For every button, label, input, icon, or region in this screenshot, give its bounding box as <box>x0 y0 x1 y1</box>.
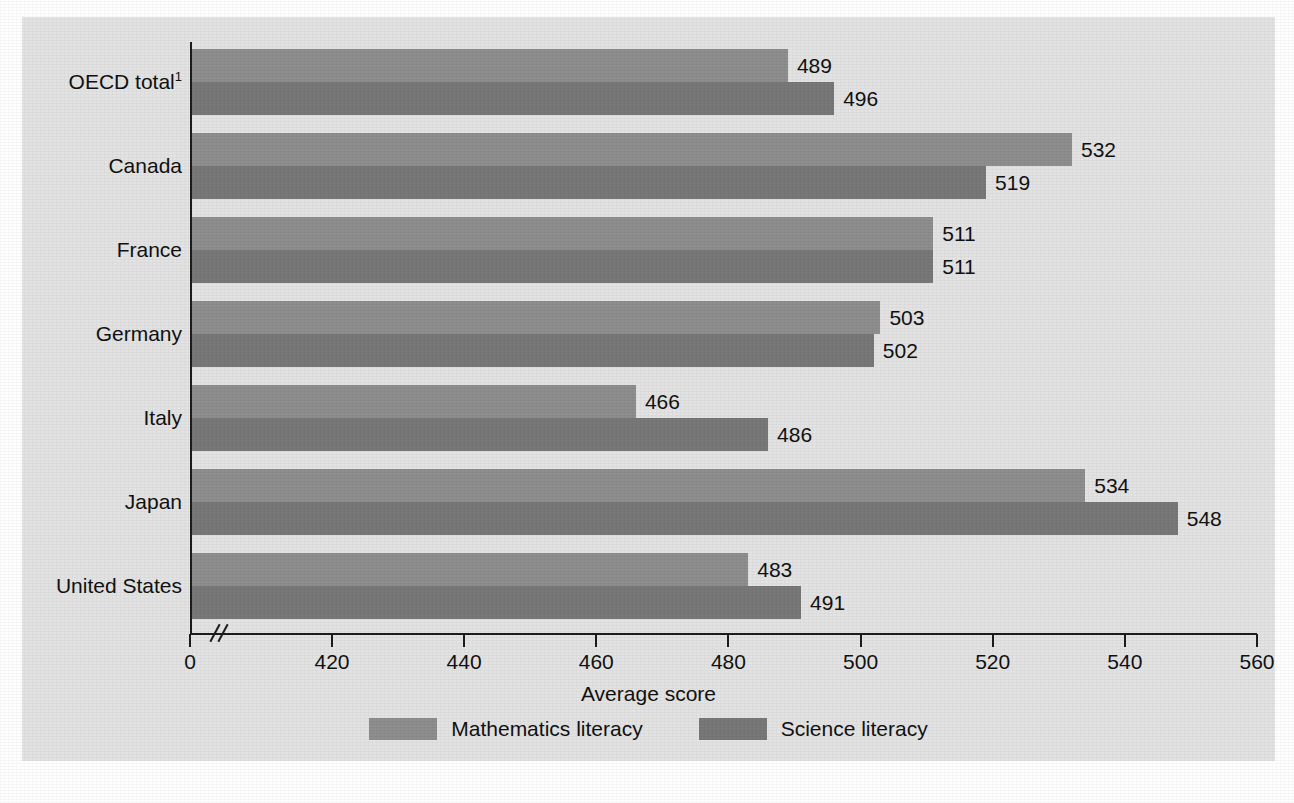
bar-value-label: 519 <box>995 171 1030 195</box>
plot-area: 0420440460480500520540560 OECD total1Can… <box>22 17 1275 761</box>
legend-swatch <box>369 718 437 740</box>
category-label: Japan <box>125 490 182 514</box>
category-label: France <box>117 238 182 262</box>
bar-mathematics <box>192 49 788 82</box>
bar-value-label: 511 <box>942 222 975 246</box>
bar-value-label: 496 <box>843 87 878 111</box>
bar-mathematics <box>192 553 748 586</box>
x-axis-tick <box>595 634 597 647</box>
bar-value-label: 486 <box>777 423 812 447</box>
bar-value-label: 483 <box>757 558 792 582</box>
bar-science <box>192 502 1178 535</box>
x-axis-tick <box>463 634 465 647</box>
x-axis-tick-label: 460 <box>579 650 614 674</box>
bar-value-label: 491 <box>810 591 845 615</box>
bar-value-label: 503 <box>889 306 924 330</box>
bar-science <box>192 418 768 451</box>
bar-value-label: 548 <box>1187 507 1222 531</box>
bar-mathematics <box>192 385 636 418</box>
x-axis-title: Average score <box>22 682 1275 706</box>
legend-label: Mathematics literacy <box>451 717 642 741</box>
x-axis-tick-label: 560 <box>1239 650 1274 674</box>
x-axis-tick <box>727 634 729 647</box>
x-axis-tick <box>189 634 191 647</box>
x-axis-tick <box>992 634 994 647</box>
category-label: Canada <box>108 154 182 178</box>
x-axis-tick <box>331 634 333 647</box>
bar-value-label: 466 <box>645 390 680 414</box>
x-axis-tick-label: 440 <box>447 650 482 674</box>
bar-value-label: 511 <box>942 255 975 279</box>
footnote-marker: 1 <box>175 69 182 84</box>
bar-science <box>192 166 986 199</box>
x-axis-tick-label: 520 <box>975 650 1010 674</box>
legend-label: Science literacy <box>781 717 928 741</box>
bar-value-label: 489 <box>797 54 832 78</box>
x-axis-tick <box>860 634 862 647</box>
figure-container: 0420440460480500520540560 OECD total1Can… <box>0 0 1294 803</box>
x-axis-tick-label: 480 <box>711 650 746 674</box>
category-label: OECD total1 <box>69 70 182 94</box>
x-axis-tick-label: 420 <box>314 650 349 674</box>
bar-mathematics <box>192 469 1085 502</box>
bar-science <box>192 334 874 367</box>
category-label: Germany <box>96 322 182 346</box>
bar-science <box>192 586 801 619</box>
bar-mathematics <box>192 301 880 334</box>
bar-value-label: 534 <box>1094 474 1129 498</box>
bar-science <box>192 250 933 283</box>
bar-mathematics <box>192 217 933 250</box>
x-axis-line <box>190 633 1257 635</box>
chart-legend: Mathematics literacyScience literacy <box>22 717 1275 741</box>
chart-panel: 0420440460480500520540560 OECD total1Can… <box>22 17 1275 761</box>
bar-mathematics <box>192 133 1072 166</box>
x-axis-tick <box>1256 634 1258 647</box>
axis-break-icon <box>208 621 234 645</box>
x-axis-tick-label: 0 <box>184 650 196 674</box>
legend-entry[interactable]: Science literacy <box>699 717 928 741</box>
x-axis-tick-label: 540 <box>1107 650 1142 674</box>
category-label: United States <box>56 574 182 598</box>
bar-science <box>192 82 834 115</box>
x-axis-tick <box>1124 634 1126 647</box>
bar-value-label: 502 <box>883 339 918 363</box>
bar-value-label: 532 <box>1081 138 1116 162</box>
x-axis-tick-label: 500 <box>843 650 878 674</box>
category-label: Italy <box>143 406 182 430</box>
legend-swatch <box>699 718 767 740</box>
legend-entry[interactable]: Mathematics literacy <box>369 717 642 741</box>
